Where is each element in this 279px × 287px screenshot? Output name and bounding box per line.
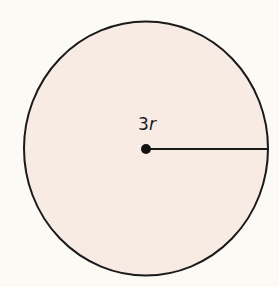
radius-coefficient: 3 <box>138 114 149 134</box>
radius-label: 3r <box>132 114 162 134</box>
circle-diagram <box>0 0 279 287</box>
radius-variable: r <box>149 114 156 134</box>
center-point <box>141 144 151 154</box>
